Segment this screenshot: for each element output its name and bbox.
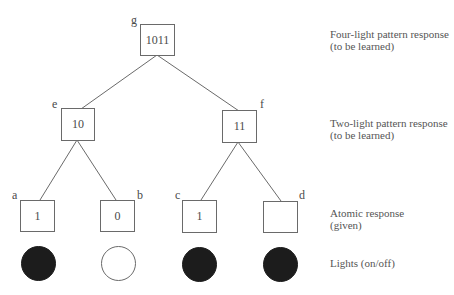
label-four-light-line2: (to be learned) — [330, 40, 449, 52]
label-atomic-line2: (given) — [330, 219, 404, 231]
node-letter-f: f — [260, 98, 264, 110]
label-lights-level: Lights (on/off) — [330, 257, 395, 269]
node-a: 1 — [20, 200, 55, 232]
node-value-a: 1 — [35, 209, 41, 224]
node-letter-b: b — [137, 189, 143, 201]
node-d — [263, 201, 298, 233]
light-c-on — [182, 247, 217, 282]
node-value-c: 1 — [197, 209, 203, 224]
node-letter-g: g — [131, 14, 137, 26]
node-e: 10 — [61, 108, 95, 141]
node-value-g: 1011 — [146, 33, 170, 48]
edge-e-a — [40, 140, 77, 200]
label-four-light-level: Four-light pattern response (to be learn… — [330, 28, 449, 52]
node-letter-c: c — [175, 189, 180, 201]
edge-e-b — [77, 140, 116, 200]
light-b-off — [101, 246, 136, 281]
edge-f-d — [238, 142, 281, 201]
node-g: 1011 — [140, 24, 175, 56]
node-letter-a: a — [12, 189, 17, 201]
label-two-light-level: Two-light pattern response (to be learne… — [330, 117, 448, 141]
hierarchical-pattern-diagram: g 1011 e 10 f 11 a 1 b 0 c 1 d Four-ligh… — [0, 0, 454, 295]
node-letter-d: d — [299, 189, 305, 201]
node-c: 1 — [182, 200, 217, 233]
light-d-on — [263, 247, 298, 282]
node-value-b: 0 — [115, 209, 121, 224]
node-value-f: 11 — [234, 119, 246, 134]
edge-g-e — [81, 55, 157, 109]
edge-g-f — [157, 55, 239, 111]
node-f: 11 — [222, 110, 257, 143]
label-two-light-line2: (to be learned) — [330, 129, 448, 141]
label-four-light-line1: Four-light pattern response — [330, 28, 449, 40]
label-lights-line1: Lights (on/off) — [330, 257, 395, 269]
node-value-e: 10 — [72, 117, 84, 132]
light-a-on — [21, 246, 56, 281]
label-atomic-line1: Atomic response — [330, 207, 404, 219]
edge-f-c — [201, 142, 238, 200]
node-b: 0 — [100, 200, 135, 232]
label-atomic-level: Atomic response (given) — [330, 207, 404, 231]
label-two-light-line1: Two-light pattern response — [330, 117, 448, 129]
node-letter-e: e — [52, 98, 57, 110]
